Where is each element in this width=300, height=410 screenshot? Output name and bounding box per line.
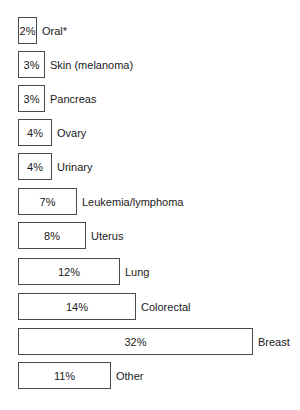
bar-breast: 32% bbox=[18, 328, 253, 355]
bar-row-ovary: 4% Ovary bbox=[18, 119, 86, 146]
bar-value: 32% bbox=[124, 336, 146, 348]
bar-value: 12% bbox=[58, 266, 80, 278]
bar-row-leukemia: 7% Leukemia/lymphoma bbox=[18, 188, 184, 215]
bar-oral: 2% bbox=[18, 17, 37, 44]
bar-label: Skin (melanoma) bbox=[50, 59, 133, 71]
bar-lung: 12% bbox=[18, 258, 120, 285]
bar-label: Colorectal bbox=[141, 301, 191, 313]
bar-row-urinary: 4% Urinary bbox=[18, 153, 92, 180]
bar-value: 8% bbox=[44, 230, 60, 242]
bar-row-other: 11% Other bbox=[18, 362, 144, 389]
bar-row-pancreas: 3% Pancreas bbox=[18, 85, 96, 112]
bar-label: Uterus bbox=[91, 230, 123, 242]
bar-leukemia: 7% bbox=[18, 188, 77, 215]
bar-row-breast: 32% Breast bbox=[18, 328, 290, 355]
bar-urinary: 4% bbox=[18, 153, 52, 180]
bar-label: Oral* bbox=[42, 25, 67, 37]
bar-value: 3% bbox=[24, 59, 40, 71]
bar-label: Lung bbox=[125, 266, 149, 278]
bar-value: 7% bbox=[40, 196, 56, 208]
bar-label: Breast bbox=[258, 336, 290, 348]
bar-row-colorectal: 14% Colorectal bbox=[18, 293, 191, 320]
bar-pancreas: 3% bbox=[18, 85, 45, 112]
bar-row-skin: 3% Skin (melanoma) bbox=[18, 51, 133, 78]
bar-label: Pancreas bbox=[50, 93, 96, 105]
bar-row-lung: 12% Lung bbox=[18, 258, 149, 285]
bar-value: 3% bbox=[24, 93, 40, 105]
bar-row-uterus: 8% Uterus bbox=[18, 222, 123, 249]
bar-label: Ovary bbox=[57, 127, 86, 139]
bar-value: 4% bbox=[27, 127, 43, 139]
bar-skin: 3% bbox=[18, 51, 45, 78]
bar-value: 2% bbox=[20, 25, 36, 37]
bar-label: Leukemia/lymphoma bbox=[82, 196, 184, 208]
bar-value: 14% bbox=[66, 301, 88, 313]
bar-uterus: 8% bbox=[18, 222, 86, 249]
bar-label: Urinary bbox=[57, 161, 92, 173]
bar-label: Other bbox=[116, 370, 144, 382]
bar-colorectal: 14% bbox=[18, 293, 136, 320]
horizontal-bar-chart: 2% Oral* 3% Skin (melanoma) 3% Pancreas … bbox=[0, 0, 300, 410]
bar-row-oral: 2% Oral* bbox=[18, 17, 67, 44]
bar-ovary: 4% bbox=[18, 119, 52, 146]
bar-value: 11% bbox=[54, 370, 75, 382]
bar-other: 11% bbox=[18, 362, 111, 389]
bar-value: 4% bbox=[27, 161, 43, 173]
